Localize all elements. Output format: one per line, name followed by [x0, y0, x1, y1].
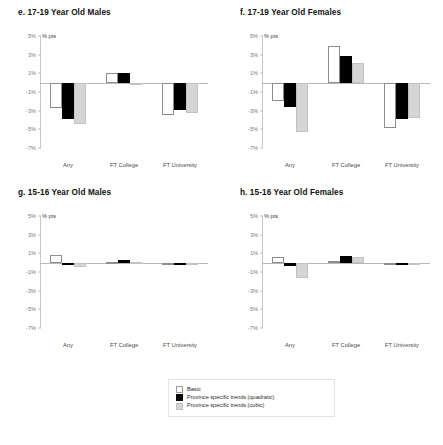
y-axis-tick-mark [260, 309, 263, 310]
bar-group-ft-university [162, 216, 198, 328]
bar-group-ft-college [106, 216, 142, 328]
bar-quadratic [284, 83, 296, 107]
chart-panel-h: h. 15-16 Year Old Females% pts5%3%1%-1%-… [222, 180, 443, 360]
y-axis-tick-label: 5% [250, 213, 258, 219]
x-axis-tick-label: FT College [332, 162, 360, 168]
panel-title-h: h. 15-16 Year Old Females [240, 188, 343, 197]
bar-group-any [50, 36, 86, 148]
bar-quadratic [396, 263, 408, 265]
bar-cubic [130, 262, 142, 264]
bar-quadratic [284, 263, 296, 266]
y-axis-tick-mark [38, 253, 41, 254]
y-axis-tick-label: 3% [28, 52, 36, 58]
plot-area-e: 5%3%1%-1%-3%-5%-7%AnyFT CollegeFT Univer… [40, 36, 208, 148]
bar-basic [384, 83, 396, 129]
y-axis-tick-mark [38, 129, 41, 130]
legend-swatch-basic-icon [176, 386, 183, 393]
y-axis-tick-mark [38, 290, 41, 291]
chart-panel-g: g. 15-16 Year Old Males% pts5%3%1%-1%-3%… [0, 180, 221, 360]
y-axis-tick-mark [38, 73, 41, 74]
y-axis-tick-label: 5% [250, 33, 258, 39]
y-axis-tick-label: 1% [250, 250, 258, 256]
bar-quadratic [174, 83, 186, 110]
figure-panel-grid: e. 17-19 Year Old Males% pts5%3%1%-1%-3%… [0, 0, 443, 445]
panel-title-e: e. 17-19 Year Old Males [18, 8, 111, 17]
panel-title-g: g. 15-16 Year Old Males [18, 188, 111, 197]
bar-basic [272, 83, 284, 102]
bar-cubic [74, 263, 86, 268]
y-axis-tick-label: -3% [248, 108, 258, 114]
legend-item: Province specific trends (quadratic) [176, 394, 328, 401]
y-axis-tick-mark [260, 216, 263, 217]
legend-label: Basic [187, 387, 201, 393]
x-axis-tick-label: FT University [163, 342, 197, 348]
y-axis-tick-mark [260, 110, 263, 111]
y-axis-tick-label: 5% [28, 213, 36, 219]
bar-quadratic [62, 263, 74, 265]
bar-quadratic [174, 263, 186, 265]
x-axis-tick-label: FT College [110, 162, 138, 168]
x-axis-tick-label: FT College [110, 342, 138, 348]
y-axis-tick-mark [260, 328, 263, 329]
y-axis-tick-label: -5% [26, 306, 36, 312]
y-axis-tick-label: 1% [250, 70, 258, 76]
plot-area-h: 5%3%1%-1%-3%-5%-7%AnyFT CollegeFT Univer… [262, 216, 430, 328]
plot-area-g: 5%3%1%-1%-3%-5%-7%AnyFT CollegeFT Univer… [40, 216, 208, 328]
bar-cubic [130, 83, 142, 85]
x-axis-tick-label: Any [285, 162, 295, 168]
legend-item: Basic [176, 386, 328, 393]
y-axis-tick-label: -5% [26, 126, 36, 132]
x-axis-tick-label: Any [63, 342, 73, 348]
y-axis-tick-label: -1% [248, 89, 258, 95]
bar-quadratic [340, 256, 352, 263]
bar-quadratic [396, 83, 408, 119]
y-axis-tick-label: 1% [28, 250, 36, 256]
y-axis-tick-mark [260, 129, 263, 130]
bar-group-ft-college [328, 216, 364, 328]
bar-basic [328, 261, 340, 263]
y-axis-tick-label: -5% [248, 126, 258, 132]
x-axis-tick-label: FT University [163, 162, 197, 168]
y-axis-tick-mark [38, 309, 41, 310]
bar-group-ft-college [328, 36, 364, 148]
bar-basic [50, 83, 62, 108]
y-axis-tick-label: 3% [250, 52, 258, 58]
bar-basic [328, 46, 340, 82]
y-axis-tick-mark [38, 328, 41, 329]
bar-basic [106, 73, 118, 82]
y-axis-tick-mark [38, 110, 41, 111]
legend-label: Province specific trends (cubic) [187, 403, 264, 409]
x-axis-tick-label: FT University [385, 342, 419, 348]
legend-swatch-cubic-icon [176, 403, 183, 410]
legend-label: Province specific trends (quadratic) [187, 395, 274, 401]
bar-basic [162, 83, 174, 116]
bar-group-ft-university [384, 216, 420, 328]
chart-panel-e: e. 17-19 Year Old Males% pts5%3%1%-1%-3%… [0, 0, 221, 180]
legend-item: Province specific trends (cubic) [176, 403, 328, 410]
y-axis-tick-label: -1% [26, 269, 36, 275]
bar-quadratic [340, 56, 352, 83]
bar-group-any [272, 36, 308, 148]
y-axis-tick-mark [260, 36, 263, 37]
y-axis-tick-mark [260, 73, 263, 74]
y-axis-tick-label: 3% [28, 232, 36, 238]
bar-quadratic [62, 83, 74, 119]
y-axis-tick-label: -3% [26, 108, 36, 114]
bar-cubic [186, 263, 198, 265]
y-axis-tick-mark [260, 272, 263, 273]
bar-basic [384, 263, 396, 265]
y-axis-tick-mark [38, 54, 41, 55]
y-axis-tick-mark [260, 148, 263, 149]
y-axis-tick-label: -3% [26, 288, 36, 294]
bar-quadratic [118, 260, 130, 262]
bar-quadratic [118, 73, 130, 82]
y-axis-tick-label: -1% [248, 269, 258, 275]
y-axis-tick-mark [38, 234, 41, 235]
y-axis-tick-label: 1% [28, 70, 36, 76]
bar-cubic [296, 263, 308, 278]
y-axis-tick-mark [38, 36, 41, 37]
chart-legend: Basic Province specific trends (quadrati… [168, 379, 335, 417]
x-axis-tick-label: FT University [385, 162, 419, 168]
y-axis-tick-mark [38, 272, 41, 273]
chart-panel-f: f. 17-19 Year Old Females% pts5%3%1%-1%-… [222, 0, 443, 180]
